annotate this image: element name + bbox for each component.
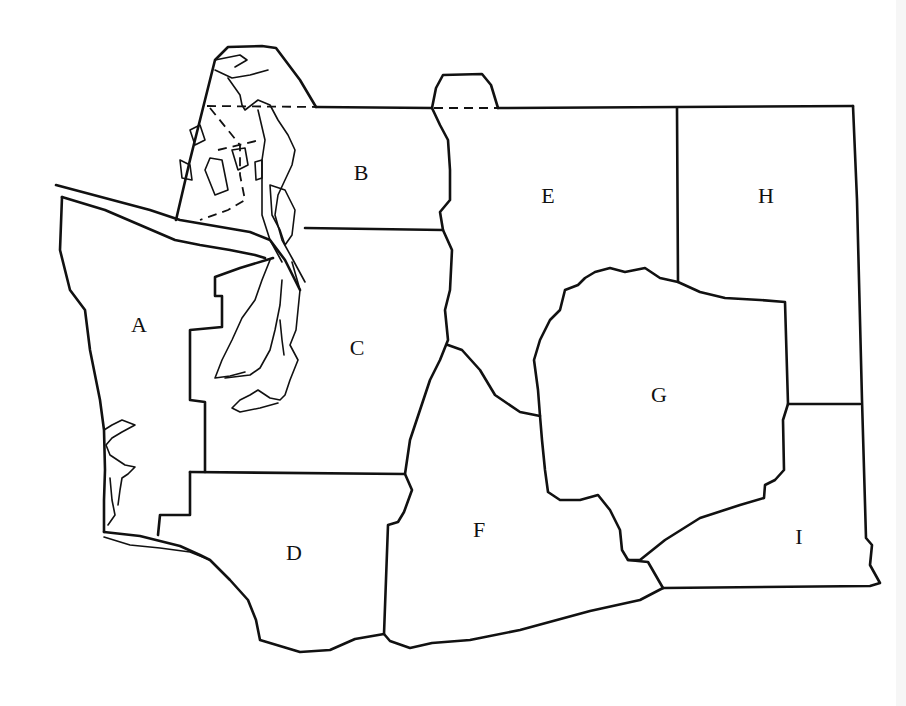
region-boundaries: [158, 108, 860, 634]
region-label-h: H: [758, 185, 774, 207]
puget-sound-detail: [180, 55, 305, 412]
region-label-i: I: [795, 526, 802, 548]
region-label-b: B: [354, 162, 369, 184]
region-label-d: D: [286, 542, 302, 564]
region-label-a: A: [131, 314, 147, 336]
region-label-e: E: [541, 185, 554, 207]
region-label-g: G: [651, 384, 667, 406]
region-map: [0, 0, 906, 706]
outer-boundary: [104, 46, 880, 652]
region-label-c: C: [350, 337, 365, 359]
region-label-f: F: [473, 519, 485, 541]
coastal-bays: [104, 420, 135, 525]
strait-coastline: [56, 185, 300, 532]
